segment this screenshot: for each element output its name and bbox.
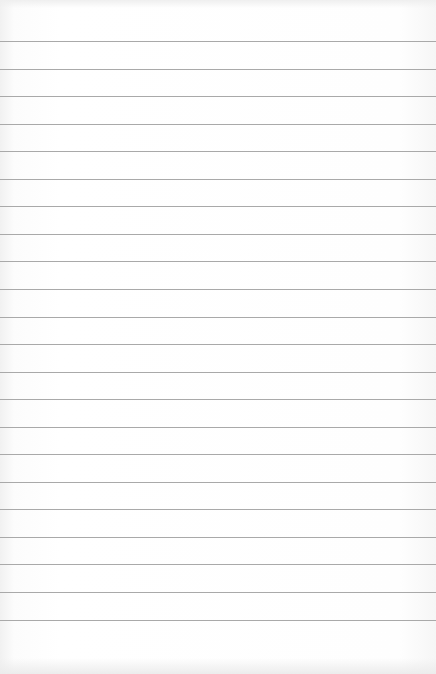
ruled-line: [0, 454, 436, 455]
ruled-line: [0, 317, 436, 318]
ruled-line: [0, 234, 436, 235]
ruled-line: [0, 261, 436, 262]
ruled-line: [0, 69, 436, 70]
ruled-line: [0, 344, 436, 345]
paper-bottom-edge: [0, 658, 436, 674]
ruled-line: [0, 482, 436, 483]
ruled-line: [0, 620, 436, 621]
ruled-line: [0, 41, 436, 42]
ruled-line: [0, 179, 436, 180]
ruled-line: [0, 564, 436, 565]
ruled-line: [0, 124, 436, 125]
ruled-line: [0, 289, 436, 290]
ruled-line: [0, 427, 436, 428]
ruled-line: [0, 372, 436, 373]
ruled-line: [0, 509, 436, 510]
ruled-line: [0, 206, 436, 207]
ruled-line: [0, 151, 436, 152]
paper-top-edge: [0, 0, 436, 8]
ruled-line: [0, 592, 436, 593]
ruled-line: [0, 399, 436, 400]
ruled-line: [0, 96, 436, 97]
lined-paper: [0, 0, 436, 674]
ruled-line: [0, 537, 436, 538]
